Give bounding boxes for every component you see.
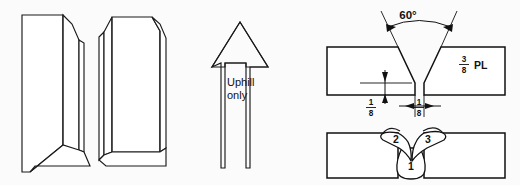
plate-block-left [22,15,90,172]
welding-diagram-figure: Uphill only 60° 1 [0,0,520,185]
plate-thickness-numerator: 3 [462,55,467,64]
root-face-denominator: 8 [369,109,374,118]
plate-left-front-face [22,15,63,172]
angle-dimension-arc [388,21,451,28]
weld-pass-label-2: 2 [393,133,399,145]
root-opening-arrow-right [425,103,434,109]
uphill-label-line2: only [227,89,248,101]
panel-beveled-plates-isometric [22,15,166,172]
uphill-label-line1: Uphill [227,76,255,88]
angle-arrow-left [386,24,396,32]
panel-uphill-arrow: Uphill only [212,22,268,168]
root-opening-denominator: 8 [417,109,422,118]
plate-block-right [99,17,166,166]
root-opening-arrow-left [405,103,414,109]
plate-left-side-face [79,40,84,152]
panel-weld-pass-sequence: 2 3 1 [327,128,505,179]
root-face-fraction: 1 8 [366,98,376,118]
root-opening-fraction: 1 8 [414,98,424,118]
diagram-canvas: Uphill only 60° 1 [0,0,520,185]
section-plate-left [327,47,415,95]
plate-thickness-denominator: 8 [462,66,467,75]
root-opening-numerator: 1 [417,98,422,107]
plate-right-front-face [112,17,160,152]
plate-right-bevel-face [104,17,112,155]
plate-right-side-face [99,32,104,160]
plate-thickness-unit: PL [474,59,488,71]
plate-left-bevel-face [63,15,79,155]
groove-angle-label: 60° [399,9,417,21]
weld-pass-label-3: 3 [425,133,431,145]
weld-pass-label-1: 1 [408,160,414,172]
panel-joint-preparation: 60° 1 8 1 8 [327,9,505,118]
root-face-numerator: 1 [369,98,374,107]
uphill-arrow-head-outline [212,22,268,67]
